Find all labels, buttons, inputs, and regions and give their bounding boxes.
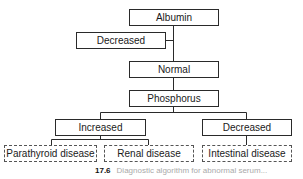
node-parathyroid-disease: Parathyroid disease bbox=[4, 145, 97, 162]
figure-number: 17.6 bbox=[95, 166, 111, 175]
node-phosphorus-decreased: Decreased bbox=[202, 119, 292, 136]
node-renal-disease: Renal disease bbox=[104, 145, 194, 162]
node-phosphorus: Phosphorus bbox=[129, 90, 219, 107]
figure-caption-text: Diagnostic algorithm for abnormal serum.… bbox=[117, 166, 268, 175]
node-label: Parathyroid disease bbox=[6, 148, 94, 159]
node-label: Normal bbox=[158, 64, 190, 75]
node-label: Decreased bbox=[97, 35, 145, 46]
figure-caption: 17.6Diagnostic algorithm for abnormal se… bbox=[95, 166, 267, 175]
node-label: Intestinal disease bbox=[208, 148, 285, 159]
node-albumin-decreased: Decreased bbox=[76, 32, 166, 49]
node-label: Phosphorus bbox=[147, 93, 200, 104]
node-normal: Normal bbox=[129, 61, 219, 78]
node-label: Albumin bbox=[156, 12, 192, 23]
node-label: Increased bbox=[79, 122, 123, 133]
node-intestinal-disease: Intestinal disease bbox=[202, 145, 292, 162]
node-increased: Increased bbox=[55, 119, 146, 136]
node-label: Decreased bbox=[223, 122, 271, 133]
node-albumin: Albumin bbox=[129, 9, 219, 26]
node-label: Renal disease bbox=[117, 148, 180, 159]
